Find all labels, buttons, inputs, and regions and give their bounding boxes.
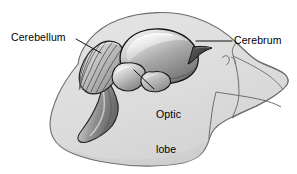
label-optic-lobe-line2: lobe [156, 144, 181, 156]
label-optic-lobe-line1: Optic [156, 109, 181, 121]
label-optic-lobe: Optic lobe [156, 86, 181, 174]
bird-brain-figure: Cerebellum Cerebrum Optic lobe [0, 0, 297, 174]
label-cerebellum: Cerebellum [11, 32, 66, 44]
brain-anatomy-illustration [0, 0, 297, 174]
label-cerebrum: Cerebrum [234, 35, 281, 47]
